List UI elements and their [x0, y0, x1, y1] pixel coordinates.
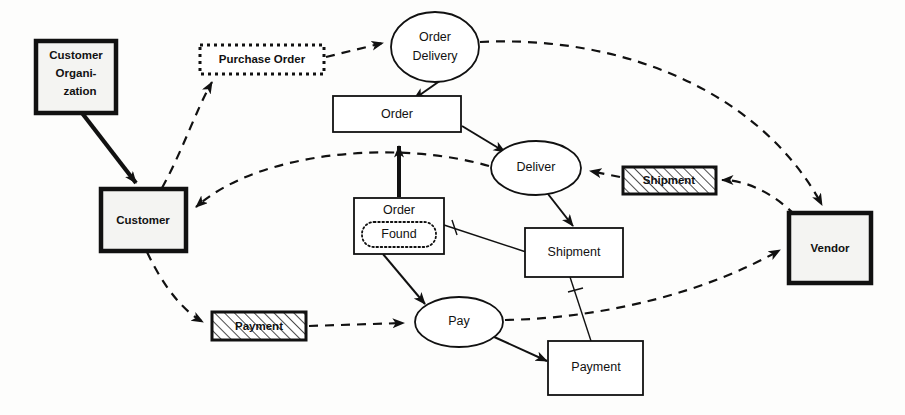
edge-order-found-to-pay	[383, 254, 425, 304]
pay-label: Pay	[448, 314, 470, 328]
edge-order-found-to-shipment-entity	[444, 225, 526, 252]
edge-pay-to-payment-entity	[492, 336, 547, 361]
node-order-found[interactable]: Order Found	[354, 198, 444, 254]
customer-organization-label-2: Organi-	[56, 67, 97, 79]
order-found-inner-label: Found	[381, 227, 416, 241]
node-customer[interactable]: Customer	[101, 189, 186, 251]
node-shipment-entity[interactable]: Shipment	[525, 228, 623, 277]
node-deliver[interactable]: Deliver	[491, 141, 581, 195]
node-vendor[interactable]: Vendor	[789, 213, 871, 283]
edge-shipment-entity-to-payment-entity	[570, 277, 591, 341]
payment-entity-label: Payment	[571, 360, 621, 374]
edge-customer-to-purchase-order	[162, 82, 212, 188]
diagram-canvas: Customer Organi- zation Customer Vendor …	[0, 0, 905, 415]
edge-customer-to-payment-flow	[147, 252, 203, 322]
edge-purchase-order-to-order-delivery	[326, 43, 383, 57]
node-payment-flow[interactable]: Payment	[212, 312, 306, 340]
shipment-flow-label: Shipment	[643, 174, 696, 186]
process-diagram: Customer Organi- zation Customer Vendor …	[0, 0, 905, 415]
node-purchase-order[interactable]: Purchase Order	[200, 45, 324, 74]
order-delivery-label-2: Delivery	[412, 49, 458, 63]
edge-shipment-flow-to-deliver	[590, 171, 620, 177]
order-found-outer-label: Order	[383, 203, 415, 217]
customer-organization-label-3: zation	[63, 85, 96, 97]
customer-label: Customer	[116, 214, 170, 226]
vendor-label: Vendor	[811, 242, 851, 254]
node-customer-organization[interactable]: Customer Organi- zation	[36, 41, 116, 113]
edge-order-to-deliver	[462, 126, 505, 152]
edge-deliver-to-customer	[196, 152, 489, 207]
order-delivery-label-1: Order	[419, 30, 451, 44]
node-order-delivery[interactable]: Order Delivery	[391, 12, 479, 82]
edge-vendor-to-shipment-flow	[722, 180, 795, 215]
edge-deliver-to-shipment-entity	[548, 194, 573, 226]
customer-organization-label-1: Customer	[49, 49, 103, 61]
node-order[interactable]: Order	[333, 96, 461, 132]
edge-payment-flow-to-pay	[309, 323, 404, 326]
tick-shipment-payment	[568, 288, 583, 292]
purchase-order-label: Purchase Order	[219, 53, 306, 65]
order-label: Order	[381, 107, 413, 121]
payment-flow-label: Payment	[235, 320, 283, 332]
node-payment-entity[interactable]: Payment	[548, 341, 643, 395]
node-pay[interactable]: Pay	[415, 297, 503, 347]
edge-customer-organization-to-customer	[82, 113, 136, 183]
node-shipment-flow[interactable]: Shipment	[623, 167, 716, 194]
shipment-entity-label: Shipment	[548, 245, 601, 259]
deliver-label: Deliver	[517, 160, 556, 174]
